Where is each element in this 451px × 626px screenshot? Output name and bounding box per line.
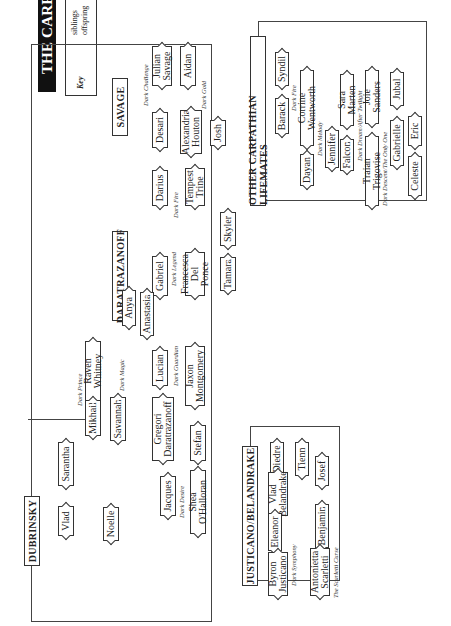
family-justicano-belandrake: JUSTICANO/BELANDRAKE: [242, 446, 258, 586]
person-byron-justicano: Byron Justicano: [268, 552, 288, 596]
person-jacques: Jacques: [160, 476, 176, 516]
book-dark-desire: Dark Desire: [178, 486, 185, 518]
person-darius: Darius: [152, 170, 168, 206]
person-sara-marten: Sara Marten: [340, 74, 354, 126]
person-anya: Anya: [122, 290, 136, 326]
book-dark-melody: Dark Melody: [316, 122, 323, 156]
person-gregori-daratrazanoff: Gregori Daratrazanoff: [152, 397, 174, 461]
key-offspring: offspring: [80, 6, 89, 35]
person-eleanor: Eleanor: [268, 513, 282, 551]
person-shea-ohalloran: Shea O'Halloran: [190, 470, 206, 534]
person-traian-trigovise: Traian Trigovise: [365, 136, 379, 206]
key-siblings: siblings: [70, 10, 79, 35]
person-tamara: Tamara: [220, 257, 236, 291]
person-skyler: Skyler: [220, 212, 236, 246]
book-scarletti-curse: The Scarletti Curse: [332, 547, 339, 598]
person-falcon: Falcon: [340, 139, 354, 171]
family-tree-diagram: THE CARPATHIANS Key lifemates twins adop…: [0, 0, 451, 626]
book-dark-gold: Dark Gold: [200, 81, 207, 109]
book-dark-prince: Dark Prince: [76, 374, 83, 406]
person-jaxon-montgomery: Jaxon Montgomery: [185, 346, 205, 406]
person-savannah: Savannah: [110, 397, 126, 441]
person-josef: Josef: [315, 456, 329, 486]
person-jubal: Jubal: [390, 72, 404, 106]
person-noelle: Noelle: [103, 507, 119, 541]
person-desari: Desari: [152, 112, 168, 148]
person-joie-sanders: Joie Sanders: [365, 70, 379, 124]
person-benjamin: Benjamin: [315, 504, 329, 548]
person-antonietta-scarletti: Antonietta Scarletti: [310, 548, 330, 596]
person-stefan: Stefan: [190, 425, 206, 461]
person-vlad-dubrinsky: Vlad: [58, 506, 74, 536]
family-savage: SAVAGE: [112, 78, 128, 136]
person-tienn: Tienn: [295, 442, 309, 476]
person-anastasia: Anastasia: [140, 292, 154, 336]
family-other-lifemates: OTHER CARPATHIAN LIFEMATES: [250, 36, 266, 206]
book-dark-magic: Dark Magic: [118, 359, 125, 391]
person-lucian: Lucian: [152, 350, 168, 386]
person-sarantha: Sarantha: [58, 442, 74, 486]
book-dark-legend: Dark Legend: [170, 252, 177, 286]
person-vlad-belandrake: Vlad Belandrake: [268, 472, 288, 516]
person-josh: Josh: [210, 120, 226, 146]
family-dubrinsky: DUBRINSKY: [24, 496, 40, 566]
person-raven-whitney: Raven Whitney: [85, 341, 101, 401]
person-syndil: Syndil: [275, 52, 289, 86]
person-julian-savage: Julian Savage: [152, 46, 172, 86]
person-corrine-wentworth: Corrine Wentworth: [300, 70, 314, 146]
person-dayan: Dayan: [300, 154, 314, 186]
book-dark-challenge: Dark Challenge: [142, 64, 149, 106]
person-barack: Barack: [275, 98, 289, 134]
book-dark-symphony: Dark Symphony: [290, 544, 297, 586]
person-celeste: Celeste: [408, 156, 422, 196]
person-mikhail: Mikhail: [85, 400, 101, 436]
person-jennifer: Jennifer: [325, 130, 339, 168]
person-aidan: Aidan: [180, 46, 196, 86]
person-eric: Eric: [408, 116, 422, 146]
person-gabrielle: Gabrielle: [390, 120, 404, 166]
person-gabriel: Gabriel: [152, 256, 168, 296]
person-tempest-trine: Tempest Trine: [185, 168, 205, 206]
person-alexandria-houton: Alexandria Houton: [180, 110, 202, 154]
book-dark-descent: Dark Descent/The Only One: [381, 132, 388, 206]
book-dark-guardian: Dark Guardian: [172, 346, 179, 386]
book-dark-fire: Dark Fire: [172, 192, 179, 218]
person-francesca-del-ponce: Francesca Del Ponce: [185, 252, 205, 296]
